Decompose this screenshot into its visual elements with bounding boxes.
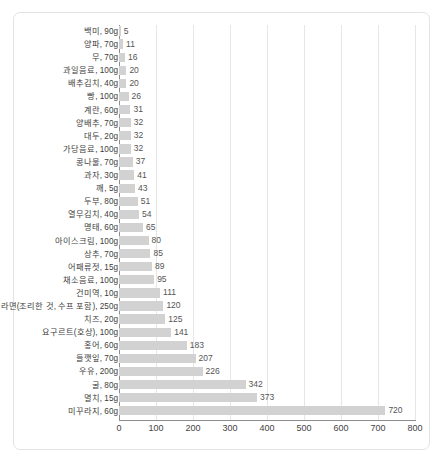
category-label-row: 명태, 60g <box>0 221 118 234</box>
bar-row: 20 <box>119 77 415 90</box>
category-label: 미꾸라지, 60g <box>0 405 118 418</box>
category-label-row: 양파, 70g <box>0 38 118 51</box>
bar-value-label: 51 <box>141 195 150 208</box>
bar <box>119 328 171 337</box>
category-label: 계란, 60g <box>0 104 118 117</box>
plot-area: 백미, 90g양파, 70g무, 70g과일음료, 100g배추김치, 40g빵… <box>119 25 415 420</box>
bar-value-label: 95 <box>157 273 166 286</box>
category-label: 배추김치, 40g <box>0 77 118 90</box>
bar-row: 65 <box>119 221 415 234</box>
bar-value-label: 183 <box>190 339 204 352</box>
bar <box>119 131 131 140</box>
bar-value-label: 65 <box>146 221 155 234</box>
bar-row: 20 <box>119 64 415 77</box>
bar <box>119 380 246 389</box>
bar-value-label: 207 <box>199 352 213 365</box>
bar-row: 11 <box>119 38 415 51</box>
x-tick-label: 300 <box>222 423 237 433</box>
bar <box>119 275 154 284</box>
category-label: 홍어, 60g <box>0 339 118 352</box>
category-label-row: 빵, 100g <box>0 90 118 103</box>
bar-row: 120 <box>119 300 415 313</box>
bar <box>119 144 131 153</box>
bar-value-label: 120 <box>166 299 180 312</box>
bar <box>119 223 143 232</box>
bar <box>119 170 134 179</box>
x-tick-label: 800 <box>407 423 422 433</box>
bar-value-label: 16 <box>128 51 137 64</box>
category-label-row: 건미역, 10g <box>0 287 118 300</box>
category-label: 두부, 80g <box>0 195 118 208</box>
category-label-row: 대두, 20g <box>0 130 118 143</box>
category-label-row: 들깻잎, 70g <box>0 352 118 365</box>
category-label: 열무김치, 40g <box>0 208 118 221</box>
category-label-row: 무, 70g <box>0 51 118 64</box>
bar-row: 26 <box>119 90 415 103</box>
bar <box>119 354 196 363</box>
category-label-row: 아이스크림, 100g <box>0 235 118 248</box>
category-label: 멸치, 15g <box>0 392 118 405</box>
category-label: 아이스크림, 100g <box>0 235 118 248</box>
bar-row: 41 <box>119 169 415 182</box>
bar-row: 85 <box>119 248 415 261</box>
category-label: 상추, 70g <box>0 248 118 261</box>
gridline <box>415 25 416 420</box>
category-label-row: 라면(조리한 것, 수프 포함), 250g <box>0 300 118 313</box>
bar-row: 43 <box>119 182 415 195</box>
bar <box>119 249 150 258</box>
category-label: 콩나물, 70g <box>0 156 118 169</box>
category-label-row: 어패류젓, 15g <box>0 261 118 274</box>
bar-value-label: 720 <box>388 404 402 417</box>
bar-value-label: 32 <box>134 129 143 142</box>
bar-row: 89 <box>119 261 415 274</box>
category-label-row: 열무김치, 40g <box>0 208 118 221</box>
x-tick-label: 700 <box>370 423 385 433</box>
category-label-row: 홍어, 60g <box>0 339 118 352</box>
bar-row: 54 <box>119 208 415 221</box>
category-label: 빵, 100g <box>0 90 118 103</box>
category-label: 어패류젓, 15g <box>0 261 118 274</box>
category-label: 치즈, 20g <box>0 313 118 326</box>
category-label-row: 채소음료, 100g <box>0 274 118 287</box>
bar <box>119 210 139 219</box>
bar <box>119 314 165 323</box>
bar-row: 32 <box>119 143 415 156</box>
category-label: 가당음료, 100g <box>0 143 118 156</box>
bar <box>119 105 130 114</box>
bar-value-label: 20 <box>129 64 138 77</box>
bar-value-label: 32 <box>134 142 143 155</box>
bar-row: 51 <box>119 195 415 208</box>
bar-value-label: 85 <box>153 247 162 260</box>
bar-row: 32 <box>119 130 415 143</box>
bar <box>119 406 385 415</box>
bar <box>119 236 149 245</box>
category-label-row: 치즈, 20g <box>0 313 118 326</box>
bar <box>119 79 126 88</box>
category-label: 라면(조리한 것, 수프 포함), 250g <box>0 300 118 313</box>
bar <box>119 367 203 376</box>
bar-row: 111 <box>119 287 415 300</box>
bar-value-label: 26 <box>132 90 141 103</box>
bar-row: 226 <box>119 365 415 378</box>
bar-value-label: 20 <box>129 77 138 90</box>
x-tick-label: 200 <box>185 423 200 433</box>
bar-row: 37 <box>119 156 415 169</box>
bar-value-label: 32 <box>134 116 143 129</box>
bar-row: 31 <box>119 104 415 117</box>
bar-row: 207 <box>119 352 415 365</box>
x-tick-label: 500 <box>296 423 311 433</box>
bar <box>119 118 131 127</box>
bar <box>119 184 135 193</box>
category-label: 백미, 90g <box>0 25 118 38</box>
x-tick-label: 0 <box>116 423 121 433</box>
bar-series: 5111620202631323232374143515465808589951… <box>119 25 415 418</box>
bar-value-label: 342 <box>249 378 263 391</box>
category-label-row: 계란, 60g <box>0 104 118 117</box>
bar-row: 720 <box>119 405 415 418</box>
bar-value-label: 125 <box>168 313 182 326</box>
category-label-row: 콩나물, 70g <box>0 156 118 169</box>
category-label-row: 상추, 70g <box>0 248 118 261</box>
category-label: 양파, 70g <box>0 38 118 51</box>
bar-value-label: 89 <box>155 260 164 273</box>
bar <box>119 288 160 297</box>
